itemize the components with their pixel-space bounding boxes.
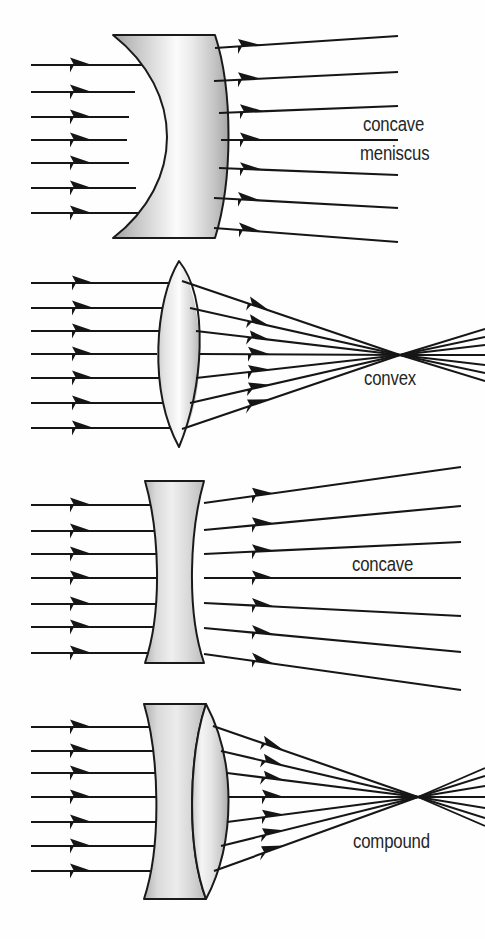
panel-compound: compound xyxy=(31,704,485,899)
incoming-rays-convex xyxy=(31,276,176,436)
lens-diagram-figure: concave meniscus xyxy=(0,0,485,939)
postfocus-rays-compound xyxy=(418,768,485,826)
label-concave-meniscus-line2: meniscus xyxy=(360,143,429,164)
outgoing-rays-concave xyxy=(204,467,461,690)
lens-compound-positive xyxy=(192,704,228,899)
label-concave: concave xyxy=(352,554,413,575)
outgoing-rays-meniscus xyxy=(214,36,398,242)
label-concave-meniscus-line1: concave xyxy=(363,114,424,135)
incoming-rays-concave xyxy=(31,498,165,661)
panel-concave-meniscus: concave meniscus xyxy=(31,35,429,242)
label-convex: convex xyxy=(364,368,416,389)
panel-convex: convex xyxy=(31,261,485,447)
lens-convex-left xyxy=(158,261,179,447)
label-compound: compound xyxy=(353,831,430,852)
incoming-rays-meniscus xyxy=(31,58,148,221)
panel-concave: concave xyxy=(31,467,461,690)
outgoing-rays-convex xyxy=(182,281,400,429)
lens-concave xyxy=(145,481,204,663)
